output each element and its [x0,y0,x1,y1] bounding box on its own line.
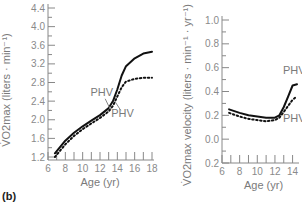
phv-annotation: PHV [283,64,302,76]
y-tick-label: 2.4 [31,96,45,107]
y-tick-label: 4.0 [31,21,45,32]
y-tick-label: 2.0 [31,114,45,125]
y-tick-label: 0.2 [205,158,219,169]
phv-annotation: PHV [90,86,113,98]
x-tick-label: 6 [45,163,51,174]
y-tick-label: 3.2 [31,58,45,69]
y-tick-label: 0.0 [205,134,219,145]
x-tick-label: 8 [237,166,243,177]
y-tick-label: 1.2 [31,152,45,163]
x-tick-label: 8 [63,163,69,174]
y-tick-label: 1.6 [31,133,45,144]
y-axis-label: V̇O2max (liters · min⁻¹) [0,33,12,147]
x-tick-label: 16 [129,163,141,174]
x-tick-label: 12 [94,163,106,174]
y-tick-label: 2.8 [31,77,45,88]
phv-annotation: PHV [111,107,134,119]
y-tick-label: 3.6 [31,40,45,51]
panel-label: (b) [2,190,16,202]
y-tick-label: 0.8 [205,38,219,49]
phv-annotation: PHV [283,112,302,124]
chart-figure: 1.21.62.02.42.83.23.64.04.4681012141618A… [0,0,302,206]
x-tick-label: 10 [77,163,89,174]
x-axis-label: Age (yr) [244,179,283,191]
x-tick-label: 10 [252,166,264,177]
solid-line [55,52,152,154]
x-tick-label: 18 [146,163,158,174]
x-tick-label: 14 [112,163,124,174]
x-tick-label: 12 [269,166,281,177]
y-tick-label: 4.4 [31,3,45,14]
x-tick-label: 14 [287,166,299,177]
y-tick-label: 0.6 [205,62,219,73]
y-tick-label: 0.4 [205,86,219,97]
y-tick-label: 1.0 [205,15,219,26]
y-tick-label: 0.2 [205,110,219,121]
x-axis-label: Age (yr) [80,176,119,188]
y-axis-label: V̇O2max velocity (liters · min⁻¹ · yr⁻¹) [181,4,193,186]
x-tick-label: 6 [219,166,225,177]
